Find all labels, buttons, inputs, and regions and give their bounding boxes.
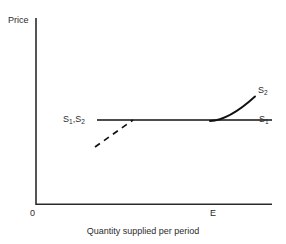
chart-background bbox=[0, 0, 286, 244]
s1-s2-left-annotation: S1,S2 bbox=[63, 115, 85, 124]
s2-subscript: 2 bbox=[264, 89, 268, 96]
s1-right-subscript: 1 bbox=[265, 118, 269, 125]
x-tick-label-e: E bbox=[210, 209, 216, 218]
s1-s2-left-subscript-2: 2 bbox=[81, 118, 85, 125]
origin-label: 0 bbox=[30, 209, 35, 218]
s1-right-annotation: S1 bbox=[259, 115, 269, 124]
s1-s2-left-mid: ,S bbox=[73, 114, 82, 124]
supply-curve-chart bbox=[0, 0, 286, 244]
y-axis-label: Price bbox=[8, 16, 29, 25]
s2-annotation: S2 bbox=[258, 86, 268, 95]
s1-s2-left-subscript-1: 1 bbox=[69, 118, 73, 125]
x-axis-title: Quantity supplied per period bbox=[0, 227, 286, 236]
